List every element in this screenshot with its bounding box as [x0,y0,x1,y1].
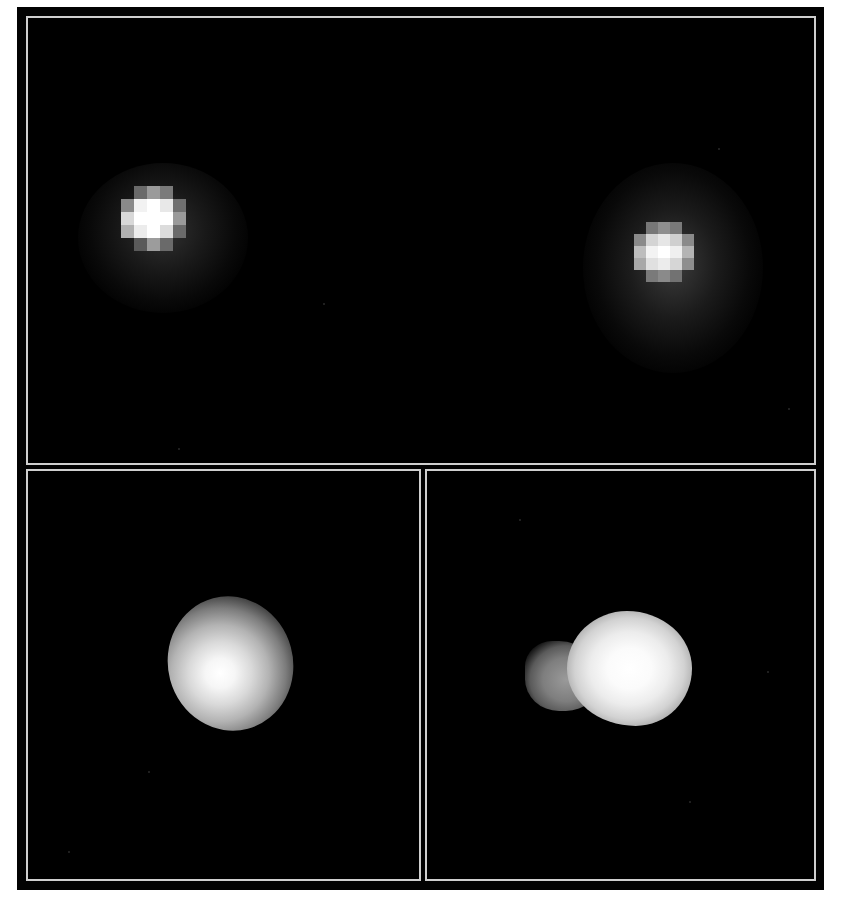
bottom-right-panel [425,469,816,881]
noise-dot [148,771,150,773]
noise-dot [68,851,70,853]
noise-dot [767,671,769,673]
bottom-left-panel [26,469,421,881]
lobed-blob [567,611,692,726]
noise-dot [178,448,180,450]
noise-dot [519,519,521,521]
noise-dot [323,303,325,305]
round-blob [153,582,309,745]
noise-dot [718,148,720,150]
noise-dot [689,801,691,803]
noise-dot [788,408,790,410]
top-panel [26,16,816,465]
